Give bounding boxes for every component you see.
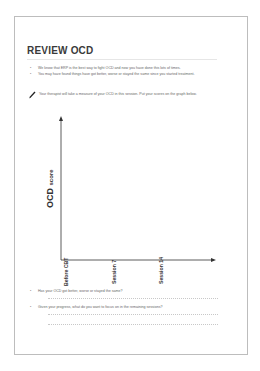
y-axis-label: OCD score — [45, 169, 55, 208]
page-title: REVIEW OCD — [27, 45, 93, 56]
pencil-icon — [28, 91, 36, 99]
x-tick-session-7: Session 7 — [111, 260, 117, 284]
blank-graph[interactable] — [30, 112, 230, 262]
intro-bullets: We know that ERP is the best way to figh… — [30, 66, 220, 77]
instruction-text: Your therapist will take a measure of yo… — [39, 92, 224, 97]
title-divider — [27, 59, 217, 60]
question-2: Given your progress, what do you want to… — [30, 305, 220, 310]
answer-line-3[interactable] — [48, 324, 218, 325]
y-axis-arrow-icon — [59, 116, 63, 121]
x-tick-session-14: Session 14 — [158, 257, 164, 284]
x-axis-arrow-icon — [211, 258, 216, 262]
answer-line-1[interactable] — [48, 298, 218, 299]
bullet-item: You may have found things have got bette… — [30, 72, 220, 77]
x-tick-before-cbt: Before CBT — [63, 257, 69, 286]
question-1: Has your OCD got better, worse or stayed… — [30, 289, 220, 294]
bullet-item: We know that ERP is the best way to figh… — [30, 66, 220, 71]
answer-line-2[interactable] — [48, 314, 218, 315]
